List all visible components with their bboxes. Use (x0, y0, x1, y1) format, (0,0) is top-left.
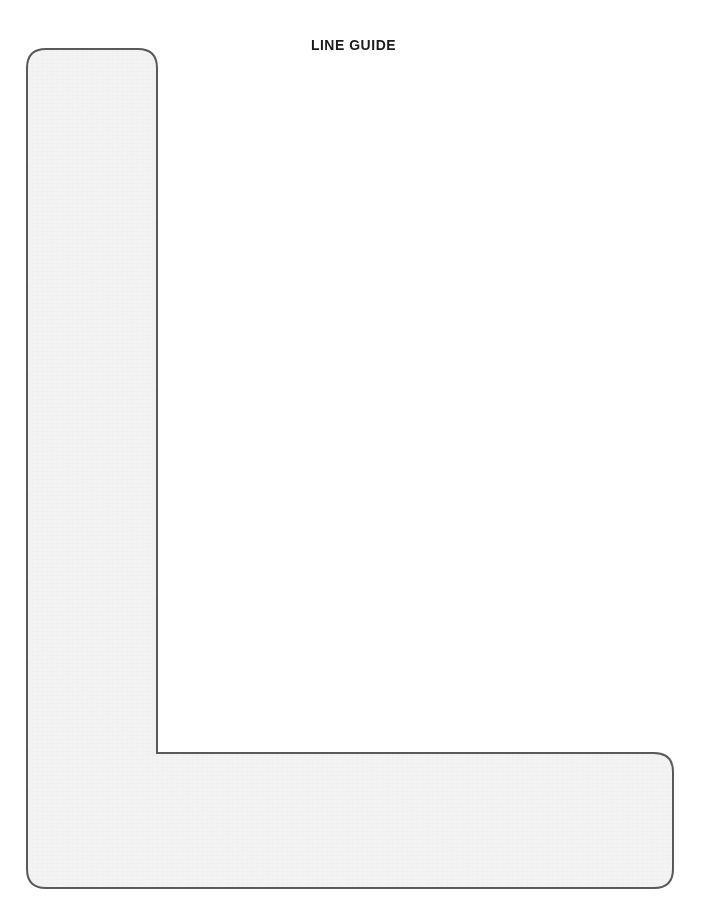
line-guide-svg (0, 0, 707, 916)
caption-remnant (30, 900, 330, 914)
line-guide-drawing (0, 0, 707, 916)
page-canvas: LINE GUIDE (0, 0, 707, 916)
l-shape-outline (27, 49, 673, 888)
